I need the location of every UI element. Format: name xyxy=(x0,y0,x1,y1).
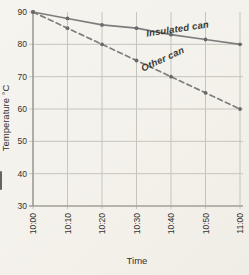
data-point-insulated-can xyxy=(135,26,139,30)
x-tick-label: 10:10 xyxy=(63,213,73,235)
x-axis-label: Time xyxy=(127,255,148,266)
y-tick-label: 70 xyxy=(18,72,28,82)
series-label-other-can: Other can xyxy=(139,44,185,73)
y-tick-label: 80 xyxy=(18,39,28,49)
data-point-other-can xyxy=(31,10,35,14)
data-point-other-can xyxy=(66,26,70,30)
x-tick-label: 10:20 xyxy=(97,213,107,235)
data-point-insulated-can xyxy=(238,42,242,46)
y-tick-label: 50 xyxy=(18,136,28,146)
scan-artifact xyxy=(0,171,2,190)
data-point-other-can xyxy=(100,42,104,46)
x-tick-label: 10:30 xyxy=(132,213,142,235)
y-tick-label: 60 xyxy=(18,104,28,114)
data-point-insulated-can xyxy=(100,23,104,27)
y-tick-label: 40 xyxy=(18,169,28,179)
data-point-insulated-can xyxy=(204,38,208,42)
y-axis-label: Temperature °C xyxy=(0,85,11,152)
gridlines xyxy=(29,12,243,209)
x-tick-label: 10:40 xyxy=(166,213,176,235)
y-tick-label: 30 xyxy=(18,201,28,211)
data-point-other-can xyxy=(238,107,242,111)
x-tick-label: 11:00 xyxy=(235,213,245,234)
data-point-insulated-can xyxy=(66,17,70,21)
data-point-other-can xyxy=(204,91,208,95)
scanned-textbook-page: 9080706050403010:0010:1010:2010:3010:401… xyxy=(0,0,249,275)
data-point-other-can xyxy=(135,59,139,63)
x-tick-label: 10:00 xyxy=(28,213,38,235)
temperature-vs-time-chart: 9080706050403010:0010:1010:2010:3010:401… xyxy=(0,0,249,275)
x-tick-label: 10:50 xyxy=(201,213,211,235)
y-tick-label: 90 xyxy=(18,7,28,17)
data-point-other-can xyxy=(169,75,173,79)
